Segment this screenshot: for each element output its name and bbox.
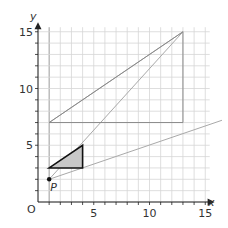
y-tick-label: 5 [26, 139, 33, 152]
y-tick-label: 10 [19, 83, 33, 96]
coordinate-diagram: O x y 5101551015 P [0, 0, 228, 228]
y-tick-label: 15 [19, 26, 33, 39]
x-tick-label: 5 [90, 207, 97, 220]
x-tick-label: 15 [198, 207, 212, 220]
grid [38, 27, 210, 202]
point-p-label: P [50, 181, 57, 194]
x-tick-label: 10 [143, 207, 157, 220]
y-axis-arrow-icon [35, 22, 42, 29]
y-axis-label: y [29, 10, 37, 23]
origin-label: O [27, 203, 36, 216]
